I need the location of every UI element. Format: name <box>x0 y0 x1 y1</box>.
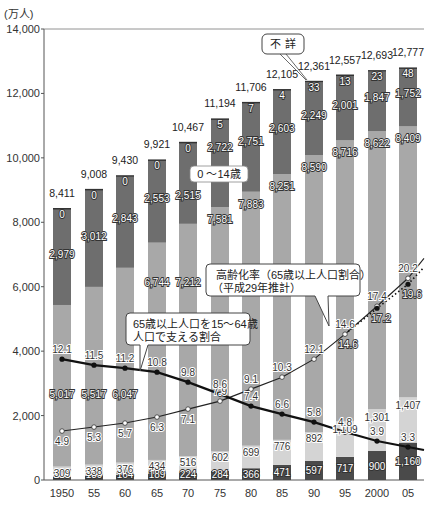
label-65-74: 1,407 <box>395 400 420 411</box>
label-total: 12,105 <box>266 68 298 80</box>
support-value: 8.6 <box>213 379 227 390</box>
support-value: 11.2 <box>116 353 135 364</box>
support-value: 10.8 <box>147 357 167 368</box>
label-15-64: 7,883 <box>238 199 263 210</box>
label-75plus: 471 <box>274 467 291 478</box>
label-0-14: 1,847 <box>364 92 389 103</box>
y-tick-label: 10,000 <box>6 152 40 164</box>
x-tick-label: 1950 <box>50 487 74 499</box>
aging-marker <box>343 332 348 337</box>
x-tick-label: 55 <box>88 487 100 499</box>
support-marker <box>122 366 127 371</box>
label-unknown: 23 <box>371 71 383 82</box>
support-value: 6.6 <box>275 399 289 410</box>
label-total: 12,361 <box>298 60 330 72</box>
aging-marker <box>92 425 97 430</box>
aging-marker <box>60 429 65 434</box>
label-0-14: 2,603 <box>269 123 294 134</box>
label-65-74: 1,301 <box>364 412 389 423</box>
label-15-64: 7,212 <box>175 277 200 288</box>
label-0-14: 2,979 <box>49 249 74 260</box>
label-75plus: 717 <box>337 463 354 474</box>
svg-text:不 詳: 不 詳 <box>270 37 295 50</box>
support-marker <box>91 363 96 368</box>
label-65-74: 376 <box>117 464 134 475</box>
label-65-74: 699 <box>243 447 260 458</box>
label-total: 12,777 <box>392 46 424 58</box>
y-tick-label: 2,000 <box>12 410 40 422</box>
x-tick-label: 75 <box>214 487 226 499</box>
aging-value: 14.6 <box>335 319 355 330</box>
label-total: 12,557 <box>329 54 361 66</box>
label-0-14: 1,752 <box>395 88 420 99</box>
label-75plus: 284 <box>212 469 229 480</box>
support-value: 9.8 <box>181 367 195 378</box>
label-unknown: 13 <box>339 76 351 87</box>
aging-value: 9.1 <box>244 374 258 385</box>
x-tick-label: 65 <box>151 487 163 499</box>
label-75plus: 900 <box>369 461 386 472</box>
aging-marker <box>123 421 128 426</box>
label-unknown: 0 <box>154 160 160 171</box>
aging-marker <box>186 407 191 412</box>
x-tick-label: 80 <box>245 487 257 499</box>
support-marker <box>374 438 379 443</box>
label-15-64: 8,590 <box>301 162 326 173</box>
label-unknown: 4 <box>279 90 285 101</box>
y-tick-label: 6,000 <box>12 281 40 293</box>
aging-value: 10.3 <box>272 362 292 373</box>
support-value: 4.8 <box>338 417 352 428</box>
label-65-74: 338 <box>86 466 103 477</box>
label-unknown: 7 <box>248 103 254 114</box>
label-total: 10,467 <box>172 121 204 133</box>
support-marker <box>185 380 190 385</box>
projection-marker <box>405 282 410 287</box>
label-15-64: 5,017 <box>49 389 74 400</box>
label-0-14: 2,843 <box>112 213 137 224</box>
label-15-64: 7,581 <box>207 214 232 225</box>
label-unknown: 0 <box>59 209 65 220</box>
y-tick-label: 0 <box>34 474 40 486</box>
aging-value: 6.3 <box>150 422 164 433</box>
unit-label: (万人) <box>4 8 33 20</box>
label-unknown: 48 <box>402 68 414 79</box>
label-unknown: 5 <box>217 119 223 130</box>
x-tick-label: 05 <box>402 487 414 499</box>
svg-text:65歳以上人口を15〜64歳: 65歳以上人口を15〜64歳 <box>133 318 258 330</box>
y-tick-label: 8,000 <box>12 216 40 228</box>
label-75plus: 224 <box>180 469 197 480</box>
label-15-64: 8,251 <box>269 181 294 192</box>
y-tick-label: 14,000 <box>6 23 40 35</box>
label-0-14: 2,751 <box>238 136 263 147</box>
label-65-74: 892 <box>306 433 323 444</box>
aging-marker <box>406 276 411 281</box>
label-15-64: 8,716 <box>332 147 357 158</box>
projection-value: 14.6 <box>338 339 358 350</box>
label-75plus: 597 <box>306 465 323 476</box>
label-total: 11,706 <box>235 81 266 93</box>
label-65-74: 602 <box>212 452 229 463</box>
x-tick-label: 60 <box>119 487 131 499</box>
aging-marker <box>155 415 160 420</box>
support-marker <box>405 444 410 449</box>
support-value: 3.9 <box>370 426 384 437</box>
svg-text:高齢化率（65歳以上人口割合）: 高齢化率（65歳以上人口割合） <box>216 268 371 281</box>
aging-marker <box>218 399 223 404</box>
support-value: 3.3 <box>401 432 415 443</box>
callout-child: 0 〜14歳 <box>190 166 248 182</box>
label-total: 9,008 <box>81 168 107 180</box>
svg-text:人口で支える割合: 人口で支える割合 <box>133 330 221 343</box>
label-unknown: 33 <box>308 82 320 93</box>
population-chart: 02,0004,0006,0008,00010,00012,00014,0001… <box>0 0 434 510</box>
label-65-74: 776 <box>274 441 291 452</box>
support-value: 11.5 <box>85 350 104 361</box>
aging-value: 4.9 <box>55 436 69 447</box>
support-value: 7.4 <box>244 391 258 402</box>
label-75plus: 366 <box>243 469 260 480</box>
label-total: 12,693 <box>361 49 393 61</box>
x-tick-label: 90 <box>308 487 320 499</box>
label-65-74: 434 <box>149 461 166 472</box>
y-tick-label: 4,000 <box>12 345 40 357</box>
label-total: 11,194 <box>204 97 235 109</box>
label-75plus: 1,160 <box>395 456 420 467</box>
